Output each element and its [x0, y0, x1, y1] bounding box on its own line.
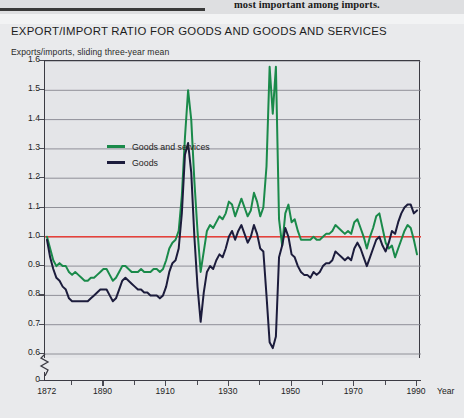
- axis-break-icon: [36, 354, 58, 376]
- legend-color-swatch: [107, 161, 125, 164]
- y-axis-tickmark: [39, 60, 44, 61]
- x-axis-tick-label: 1890: [93, 386, 112, 396]
- y-axis-tick-label: 0.9: [8, 259, 40, 269]
- white-separator-band: [0, 14, 464, 24]
- legend-item-label: Goods: [132, 158, 158, 168]
- y-axis-tickmark: [39, 294, 44, 295]
- y-axis-tickmark: [39, 353, 44, 354]
- y-axis-tickmark: [39, 119, 44, 120]
- page-root: most important among imports. EXPORT/IMP…: [0, 0, 464, 418]
- x-axis-tick-label: 1910: [156, 386, 175, 396]
- y-axis-tick-label: 0.7: [8, 318, 40, 328]
- x-axis-title: Year: [437, 386, 454, 396]
- y-axis-tick-label: 1.3: [8, 142, 40, 152]
- x-axis-tick-label: 1930: [218, 386, 237, 396]
- x-axis-tick-label: 1990: [406, 386, 425, 396]
- chart-canvas: [45, 61, 421, 359]
- x-axis-tickmark: [259, 381, 260, 385]
- x-axis-tickmark: [71, 381, 72, 385]
- x-axis-tick-label: 1970: [344, 386, 363, 396]
- y-axis-tick-label: 1.1: [8, 201, 40, 211]
- y-axis-tickmark: [39, 236, 44, 237]
- legend-item-goods-and-services: Goods and services: [107, 140, 210, 153]
- x-axis-labels: 1872189019101930195019701990: [0, 386, 464, 406]
- above-text-fragment: most important among imports.: [234, 0, 464, 10]
- plot-area: Goods and services Goods: [44, 60, 420, 358]
- chart-legend: Goods and services Goods: [107, 140, 210, 172]
- x-axis-tickmark: [385, 381, 386, 385]
- y-axis-labels: 1.61.51.41.31.21.11.00.90.80.70.60: [5, 0, 40, 418]
- legend-item-label: Goods and services: [132, 142, 210, 152]
- y-axis-tickmark: [39, 89, 44, 90]
- y-axis-tick-label: 1.6: [8, 54, 40, 64]
- x-axis-tickmark: [197, 381, 198, 385]
- y-axis-tick-label: 0.8: [8, 288, 40, 298]
- y-axis-tickmark: [39, 177, 44, 178]
- x-axis-tick-label: 1872: [37, 386, 56, 396]
- chart-title: EXPORT/IMPORT RATIO FOR GOODS AND GOODS …: [11, 25, 387, 37]
- y-axis-tick-label: 1.0: [8, 230, 40, 240]
- x-axis-tickmark: [322, 381, 323, 385]
- y-axis-tickmark: [39, 207, 44, 208]
- legend-color-swatch: [107, 145, 125, 148]
- y-axis-tickmark: [39, 148, 44, 149]
- y-axis-tickmark: [39, 265, 44, 266]
- y-axis-tick-label: 1.4: [8, 113, 40, 123]
- x-axis-tickmark: [134, 381, 135, 385]
- y-axis-tickmark: [39, 380, 44, 381]
- y-axis-tick-label: 1.2: [8, 171, 40, 181]
- legend-item-goods: Goods: [107, 156, 210, 169]
- x-axis-tick-label: 1950: [281, 386, 300, 396]
- y-axis-tickmark: [39, 324, 44, 325]
- y-axis-tick-label: 1.5: [8, 83, 40, 93]
- x-axis-line: [44, 380, 421, 381]
